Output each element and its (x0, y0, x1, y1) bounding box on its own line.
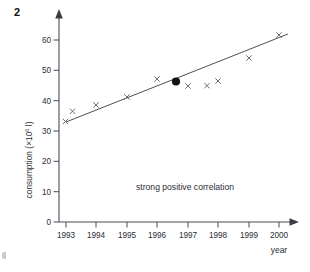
y-axis-arrow-icon (55, 9, 63, 19)
y-tick-label: 60 (42, 36, 52, 45)
y-tick-label: 0 (46, 218, 51, 227)
y-tick-label: 20 (42, 157, 52, 166)
x-tick-label: 1996 (148, 231, 167, 240)
data-point-marker (215, 78, 220, 83)
y-tick-label: 30 (42, 127, 52, 136)
x-axis-tick-labels: 1993 1994 1995 1996 1997 1998 1999 2000 (57, 231, 289, 240)
data-point-marker (93, 102, 98, 107)
x-axis-ticks (66, 222, 279, 228)
x-tick-label: 1999 (240, 231, 259, 240)
y-axis-title: consumption (×106 l) (24, 121, 34, 198)
x-axis (59, 218, 299, 226)
data-point-marker (204, 83, 209, 88)
scatter-chart: 2 0 10 20 30 40 50 (0, 0, 310, 272)
y-tick-label: 40 (42, 97, 52, 106)
x-tick-label: 2000 (270, 231, 289, 240)
x-tick-label: 1995 (118, 231, 137, 240)
x-tick-label: 1998 (209, 231, 228, 240)
correlation-annotation: strong positive correlation (136, 182, 234, 192)
mean-point-marker (172, 77, 180, 85)
data-point-marker (70, 109, 75, 114)
page-corner-mark (2, 252, 6, 259)
y-axis-title-prefix: consumption (×10 (24, 131, 34, 198)
svg-text:consumption (×106 l): consumption (×106 l) (24, 121, 34, 198)
data-point-marker (276, 32, 281, 37)
data-point-marker (246, 55, 251, 60)
y-axis (55, 9, 63, 222)
x-axis-title: year (271, 245, 288, 255)
y-axis-title-suffix: l) (24, 121, 34, 128)
x-tick-label: 1993 (57, 231, 76, 240)
chart-canvas: 0 10 20 30 40 50 60 consumption (×106 l) (0, 0, 310, 272)
x-tick-label: 1997 (179, 231, 198, 240)
y-tick-label: 50 (42, 66, 52, 75)
data-point-marker (185, 83, 190, 88)
x-tick-label: 1994 (87, 231, 106, 240)
x-axis-arrow-icon (290, 218, 300, 226)
y-tick-label: 10 (42, 188, 52, 197)
data-point-marker (154, 76, 159, 81)
y-axis-tick-labels: 0 10 20 30 40 50 60 (42, 36, 52, 227)
y-axis-ticks (54, 40, 60, 222)
